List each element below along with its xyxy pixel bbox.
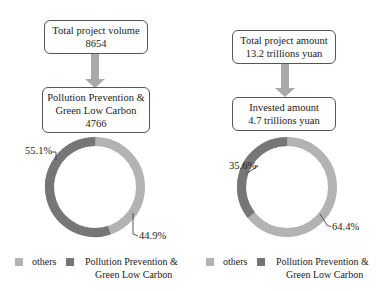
right-total-amount-box: Total project amount 13.2 trillions yuan	[232, 30, 336, 64]
right-down-arrow-icon	[275, 64, 295, 97]
right-legend-pollution-label: Pollution Prevention & Green Low Carbon	[276, 255, 373, 281]
right-legend-others-label: others	[223, 255, 247, 268]
right-invested-value: 4.7 trillions yuan	[248, 114, 319, 127]
left-legend: others Pollution Prevention & Green Low …	[0, 255, 191, 285]
left-legend-others-swatch	[15, 258, 23, 266]
right-legend: others Pollution Prevention & Green Low …	[191, 255, 382, 285]
right-legend-pollution-swatch	[257, 258, 265, 266]
left-down-arrow-icon	[85, 53, 105, 88]
left-pollution-label-line2: Green Low Carbon	[55, 104, 136, 117]
left-total-volume-value: 8654	[86, 37, 107, 50]
right-legend-others-swatch	[206, 258, 214, 266]
left-others-percent: 44.9%	[139, 230, 166, 241]
left-donut-chart	[37, 129, 152, 244]
left-legend-pollution-line1: Pollution Prevention &	[85, 255, 182, 268]
right-total-amount-label: Total project amount	[240, 34, 327, 47]
right-invested-label: Invested amount	[249, 101, 319, 114]
left-total-volume-label: Total project volume	[52, 24, 139, 37]
right-legend-pollution-line1: Pollution Prevention &	[276, 255, 373, 268]
left-pollution-box: Pollution Prevention & Green Low Carbon …	[42, 87, 150, 133]
left-pollution-label-line1: Pollution Prevention &	[47, 91, 144, 104]
left-legend-pollution-swatch	[66, 258, 74, 266]
left-pollution-value: 4766	[86, 117, 107, 130]
right-invested-box: Invested amount 4.7 trillions yuan	[232, 97, 336, 131]
right-total-amount-value: 13.2 trillions yuan	[246, 47, 323, 60]
left-total-volume-box: Total project volume 8654	[44, 20, 148, 54]
left-pollution-percent: 55.1%	[25, 145, 52, 156]
right-legend-pollution-line2: Green Low Carbon	[276, 268, 373, 281]
left-legend-pollution-label: Pollution Prevention & Green Low Carbon	[85, 255, 182, 281]
left-donut-segment-pollution	[37, 129, 152, 244]
left-legend-pollution-line2: Green Low Carbon	[85, 268, 182, 281]
right-pollution-percent: 35.6%	[229, 160, 256, 171]
left-legend-others-label: others	[32, 255, 56, 268]
right-others-percent: 64.4%	[332, 221, 359, 232]
